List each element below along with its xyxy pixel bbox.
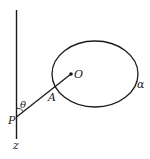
label-P: P — [7, 114, 16, 127]
point-O — [69, 72, 73, 76]
label-theta: θ — [20, 99, 26, 110]
label-O: O — [74, 68, 83, 81]
diagram-canvas: P z θ A O α — [0, 0, 150, 159]
label-alpha: α — [137, 78, 145, 91]
label-z: z — [12, 139, 19, 152]
circle-alpha — [52, 41, 138, 107]
label-A: A — [47, 91, 56, 104]
